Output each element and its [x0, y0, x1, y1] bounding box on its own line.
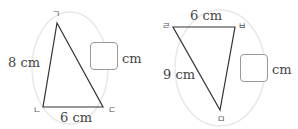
side-label-6cm-bottom: 6 cm — [60, 110, 92, 125]
vertex-label-rieul: ㄹ — [162, 19, 170, 32]
side-label-8cm: 8 cm — [8, 55, 40, 70]
vertex-label-mieum: ㅁ — [217, 112, 225, 125]
unit-label-2: cm — [272, 62, 292, 77]
vertex-label-giyeok: ㄱ — [52, 7, 60, 20]
unit-label-1: cm — [122, 51, 142, 66]
answer-box-1[interactable] — [90, 42, 118, 70]
side-label-9cm: 9 cm — [163, 67, 195, 82]
answer-box-2[interactable] — [240, 54, 268, 82]
vertex-label-nieun: ㄴ — [33, 103, 41, 116]
vertex-label-bieup: ㅂ — [238, 19, 246, 32]
side-label-6cm-top: 6 cm — [190, 8, 222, 23]
vertex-label-digeut: ㄷ — [108, 103, 116, 116]
